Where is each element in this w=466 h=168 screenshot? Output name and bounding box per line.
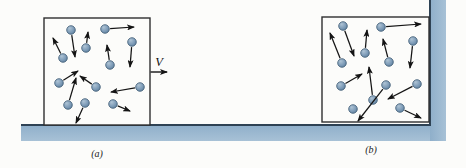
molecule — [382, 81, 391, 90]
molecule — [338, 59, 347, 68]
panel-a-caption: (a) — [91, 148, 103, 160]
molecule — [413, 80, 422, 89]
panel-b — [322, 17, 429, 122]
right-wall — [430, 0, 446, 141]
molecule — [82, 44, 91, 53]
molecule — [339, 22, 348, 31]
molecule — [349, 105, 358, 114]
molecule — [128, 38, 137, 47]
molecule — [55, 79, 64, 88]
molecule — [92, 83, 101, 92]
molecule — [385, 58, 394, 67]
panel-b-caption: (b) — [365, 144, 377, 156]
bulk-velocity-label: V — [155, 55, 164, 69]
floor-surface — [21, 125, 446, 141]
molecule — [109, 100, 118, 109]
molecule — [64, 101, 73, 110]
molecule — [337, 82, 346, 91]
molecule — [106, 61, 115, 70]
figure-content — [44, 17, 429, 125]
panel-a — [44, 18, 167, 125]
container-box-a — [44, 18, 150, 125]
molecule — [377, 23, 386, 32]
molecule — [136, 83, 145, 92]
molecule — [396, 104, 405, 113]
kinetic-theory-figure: V (a) (b) — [0, 0, 466, 168]
molecule — [101, 25, 110, 34]
container-box-b — [322, 17, 429, 122]
molecule — [59, 54, 68, 63]
molecule — [409, 37, 418, 46]
molecule — [67, 26, 76, 35]
molecule — [361, 49, 370, 58]
figure-canvas: V (a) (b) — [0, 0, 466, 168]
molecule — [81, 99, 90, 108]
